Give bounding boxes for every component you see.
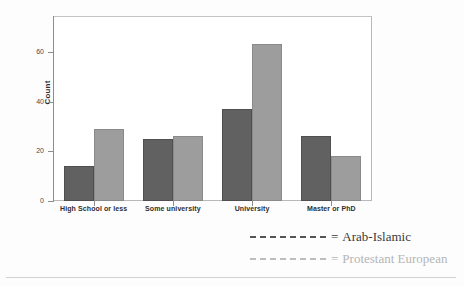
legend-label: Protestant European — [342, 251, 447, 267]
bar-1-0 — [143, 139, 173, 201]
x-axis-label-3: Master or PhD — [271, 205, 391, 212]
legend-item-protestant-european: = Protestant European — [250, 248, 460, 270]
y-axis-tick — [48, 201, 54, 202]
bar-2-1 — [252, 44, 282, 201]
bar-3-0 — [301, 136, 331, 201]
legend-dash-icon — [250, 258, 326, 260]
legend-equals-sign: = — [331, 229, 338, 245]
bar-3-1 — [331, 156, 361, 201]
y-axis-tick-label: 20 — [18, 147, 44, 154]
legend-item-arab-islamic: = Arab-Islamic — [250, 226, 460, 248]
bar-2-0 — [222, 109, 252, 201]
bar-0-0 — [64, 166, 94, 201]
bar-chart-figure: Count 0204060 High School or lessSome un… — [0, 0, 464, 225]
plot-area — [54, 17, 371, 201]
bar-0-1 — [94, 129, 124, 201]
legend-equals-sign: = — [331, 251, 338, 267]
y-axis-tick-label: 40 — [18, 98, 44, 105]
legend-label: Arab-Islamic — [342, 229, 411, 245]
chart-page: Count 0204060 High School or lessSome un… — [0, 0, 464, 287]
y-axis-tick-label: 60 — [18, 48, 44, 55]
y-axis-tick-label: 0 — [18, 197, 44, 204]
y-axis-title: Count — [43, 63, 52, 123]
page-divider — [6, 277, 456, 278]
chart-legend: = Arab-Islamic = Protestant European — [250, 226, 460, 270]
bar-1-1 — [173, 136, 203, 201]
legend-dash-icon — [250, 236, 326, 238]
